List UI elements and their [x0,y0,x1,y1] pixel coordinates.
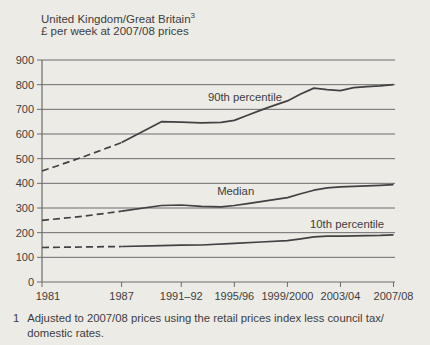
y-tick-label-0: 0 [28,276,34,288]
x-tick-label-6: 2007/08 [374,290,414,302]
series-90th-percentile: 90th percentile [42,85,394,171]
y-tick-label-700: 700 [16,103,34,115]
footnote-line-2: domestic rates. [27,327,104,339]
series-line-10th-percentile-dashed [42,247,122,248]
x-tick-label-1: 1987 [109,290,133,302]
y-tick-label-100: 100 [16,251,34,263]
x-axis-ticks: 198119871991–921995/961999/20002003/0420… [36,282,414,302]
y-axis-labels: 0100200300400500600700800900 [16,54,34,288]
footnote-marker: 1 [13,311,19,341]
x-tick-label-3: 1995/96 [214,290,254,302]
y-tick-label-200: 200 [16,227,34,239]
series-line-median [122,185,394,212]
series-label-median: Median [217,185,254,197]
y-tick-label-300: 300 [16,202,34,214]
series-label-90th-percentile: 90th percentile [208,91,282,103]
y-tick-label-800: 800 [16,79,34,91]
series-label-10th-percentile: 10th percentile [310,218,384,230]
y-tick-label-400: 400 [16,177,34,189]
y-tick-label-500: 500 [16,153,34,165]
footnote-line-1: Adjusted to 2007/08 prices using the ret… [27,312,384,324]
x-tick-label-4: 1999/2000 [261,290,313,302]
series-line-median-dashed [42,211,122,220]
x-tick-label-2: 1991–92 [160,290,203,302]
figure-income-distribution: United Kingdom/Great Britain3 £ per week… [0,0,430,345]
series-line-90th-percentile-dashed [42,143,122,171]
series-line-10th-percentile [122,235,394,247]
y-tick-label-900: 900 [16,54,34,66]
income-percentiles-line-chart: 0100200300400500600700800900198119871991… [0,0,430,308]
x-tick-label-0: 1981 [36,290,60,302]
footnote-text: Adjusted to 2007/08 prices using the ret… [27,311,384,341]
x-tick-label-5: 2003/04 [321,290,361,302]
y-tick-label-600: 600 [16,128,34,140]
footnote: 1 Adjusted to 2007/08 prices using the r… [13,311,384,341]
series-median: Median [42,185,394,221]
